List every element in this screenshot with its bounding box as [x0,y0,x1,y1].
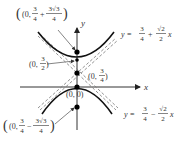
label-focus-lower: ( (0, 3 4 − 3√3 4 ) [3,117,55,135]
svg-text:4: 4 [52,15,56,23]
svg-text:y =: y = [123,110,135,119]
label-origin: (0, 0) [66,90,84,99]
svg-text:): ) [50,118,55,134]
svg-text:3√3: 3√3 [49,5,60,13]
svg-text:2: 2 [41,64,45,72]
leader-focus-lower [55,108,74,124]
svg-text:−: − [27,122,32,131]
svg-text:): ) [46,60,49,69]
svg-text:(0,: (0, [29,60,38,69]
svg-text:3: 3 [33,5,37,13]
svg-text:): ) [105,72,108,81]
label-asymptote-upper: y = 3 4 + √2 2 x [120,25,172,43]
svg-text:4: 4 [20,127,24,135]
svg-text:3: 3 [143,105,147,113]
svg-text:4: 4 [143,115,147,123]
svg-text:3√3: 3√3 [36,117,47,125]
svg-text:√2: √2 [157,25,165,33]
svg-text:3: 3 [20,117,24,125]
svg-text:+: + [40,10,45,19]
svg-text:4: 4 [140,35,144,43]
label-center: (0, 3 4 ) [88,67,108,84]
svg-text:3: 3 [140,25,144,33]
svg-text:+: + [148,30,153,39]
svg-text:x: x [169,110,174,119]
svg-text:3: 3 [100,67,104,75]
label-vertex-upper: (0, 3 2 ) [29,55,49,72]
svg-text:y =: y = [120,30,132,39]
svg-text:4: 4 [39,127,43,135]
label-focus-upper: ( (0, 3 4 + 3√3 4 ) [16,5,68,23]
svg-text:(0,: (0, [22,10,31,19]
point-center [74,70,79,75]
label-asymptote-lower: y = 3 4 − √2 2 x [123,105,174,123]
svg-text:4: 4 [100,76,104,84]
svg-text:−: − [151,110,156,119]
svg-text:): ) [63,6,68,22]
point-vertex-upper [75,58,79,62]
y-axis-label: y [80,18,85,28]
svg-text:3: 3 [41,55,45,63]
svg-text:√2: √2 [159,105,167,113]
point-focus-upper [74,49,79,54]
point-focus-lower [74,104,79,109]
x-axis-label: x [143,82,148,92]
point-origin [74,84,79,89]
svg-text:(: ( [16,6,21,22]
svg-text:2: 2 [159,35,163,43]
leader-focus-upper [58,30,75,50]
svg-text:4: 4 [33,15,37,23]
svg-text:(: ( [3,118,8,134]
svg-text:2: 2 [161,115,165,123]
svg-text:x: x [167,30,172,39]
svg-text:(0,: (0, [88,72,97,81]
svg-text:(0,: (0, [9,122,18,131]
hyperbola-diagram: x y ( (0, 3 4 + 3√3 4 ) [0,0,180,144]
